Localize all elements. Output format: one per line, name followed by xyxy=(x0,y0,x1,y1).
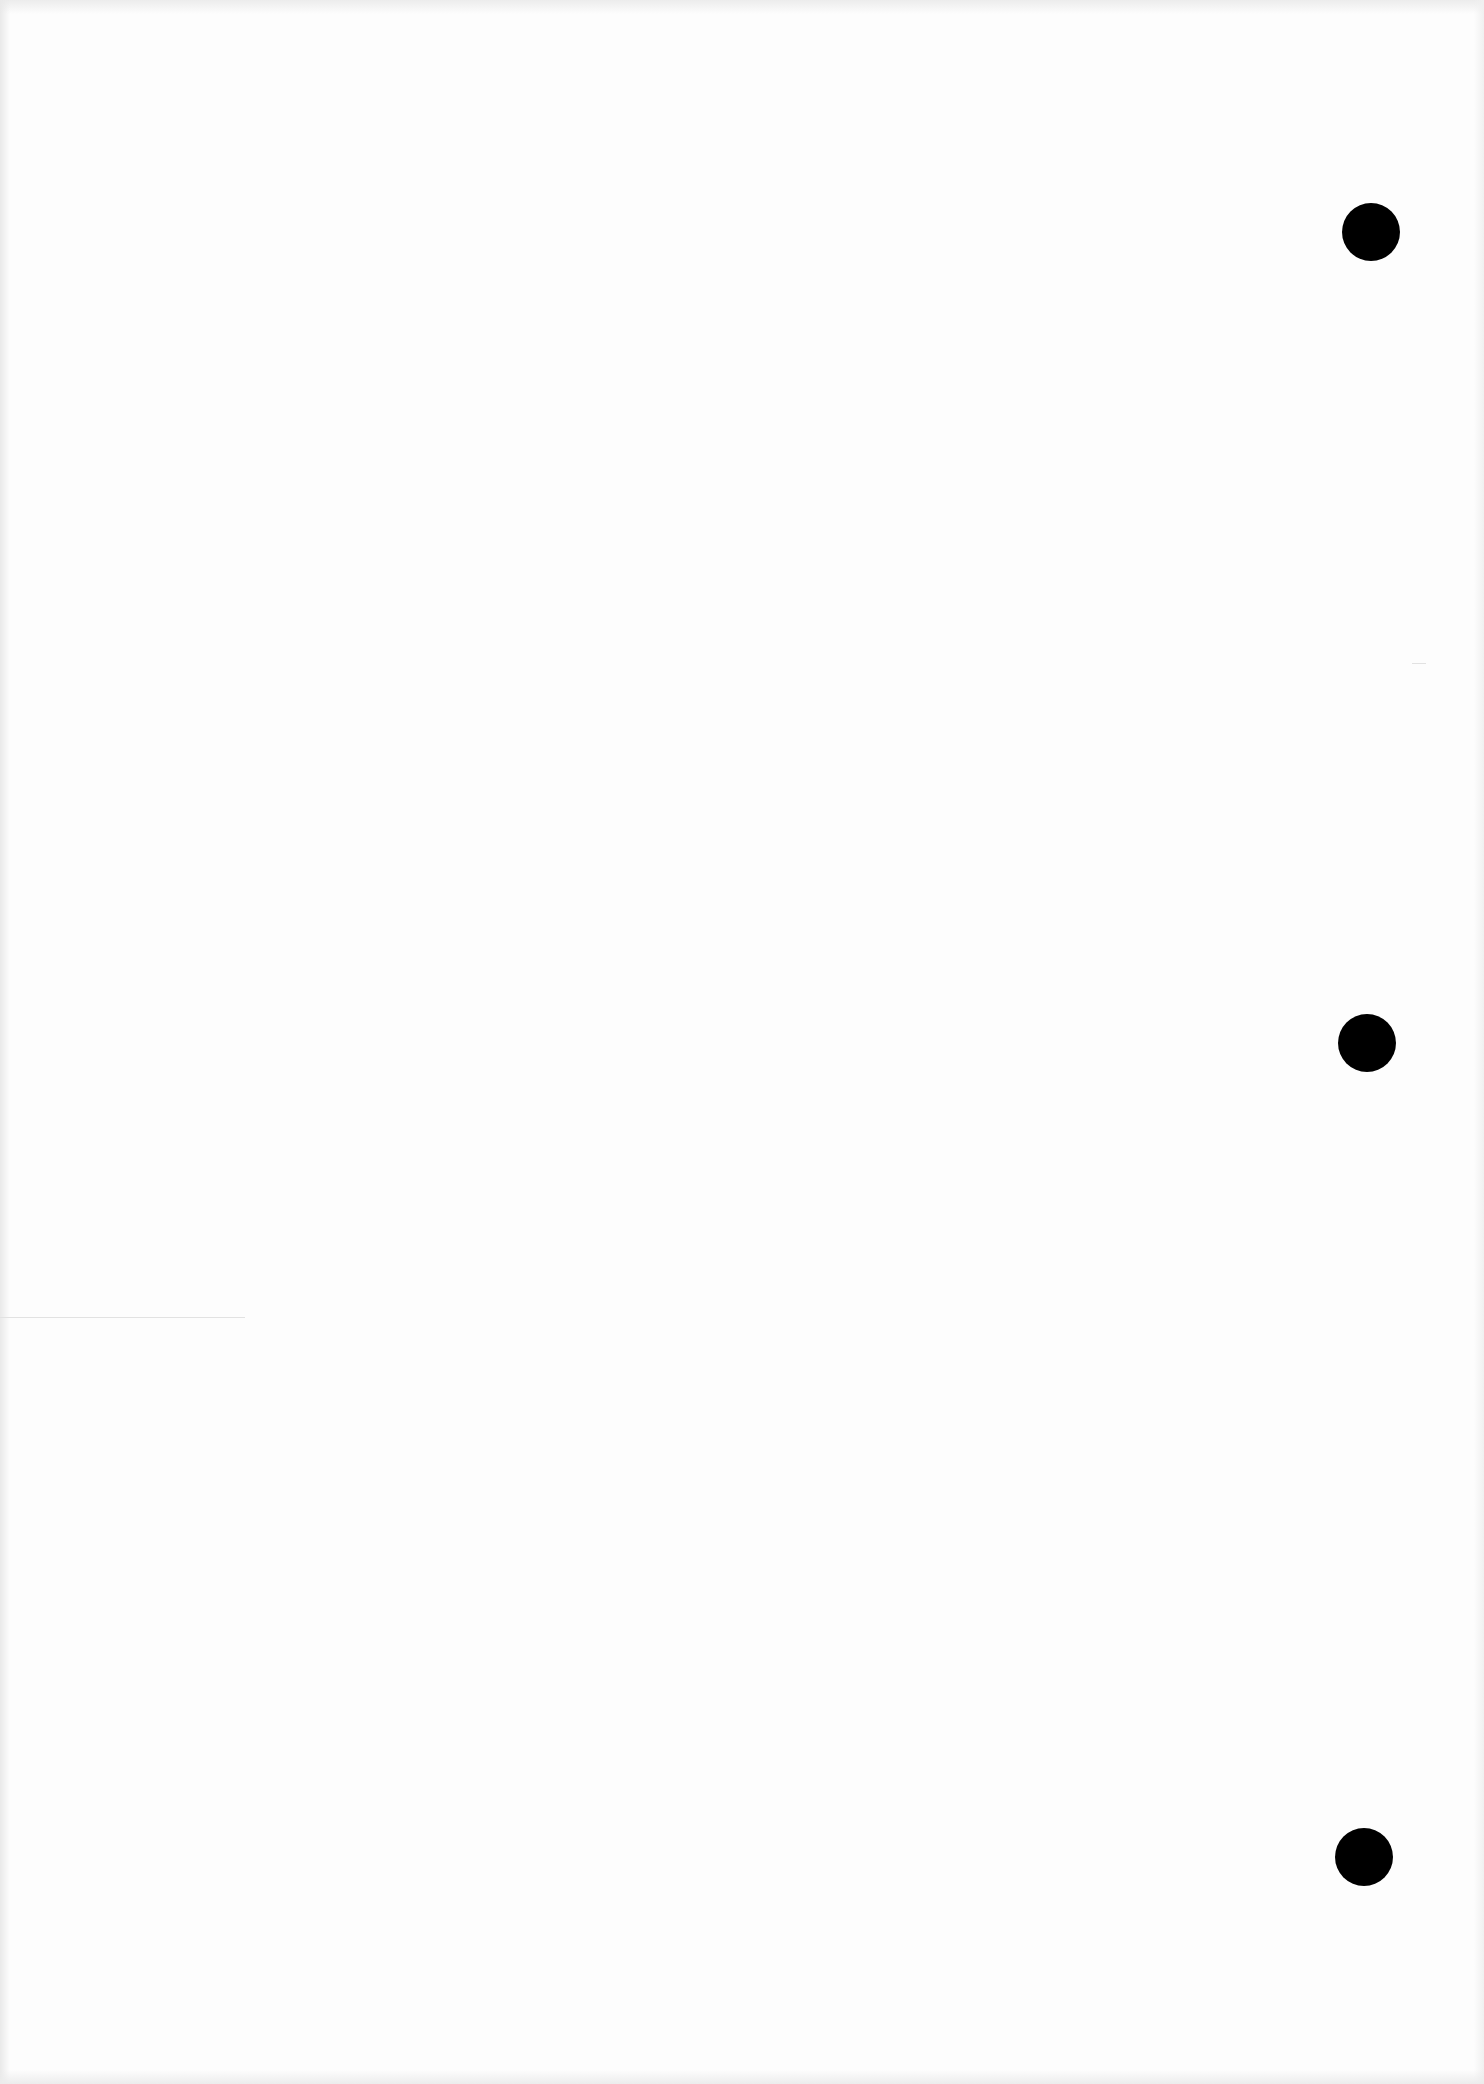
scan-edge-shadow-bottom xyxy=(0,2070,1484,2084)
scan-edge-shadow-left xyxy=(0,0,10,2084)
scan-artifact-line xyxy=(0,1317,245,1318)
scanned-blank-page xyxy=(0,0,1484,2084)
scan-edge-shadow-right xyxy=(1474,0,1484,2084)
binder-punch-hole-middle xyxy=(1338,1014,1396,1072)
binder-punch-hole-bottom xyxy=(1335,1828,1393,1886)
binder-punch-hole-top xyxy=(1342,203,1400,261)
scan-edge-shadow-top xyxy=(0,0,1484,14)
scan-artifact-dash xyxy=(1412,663,1426,664)
